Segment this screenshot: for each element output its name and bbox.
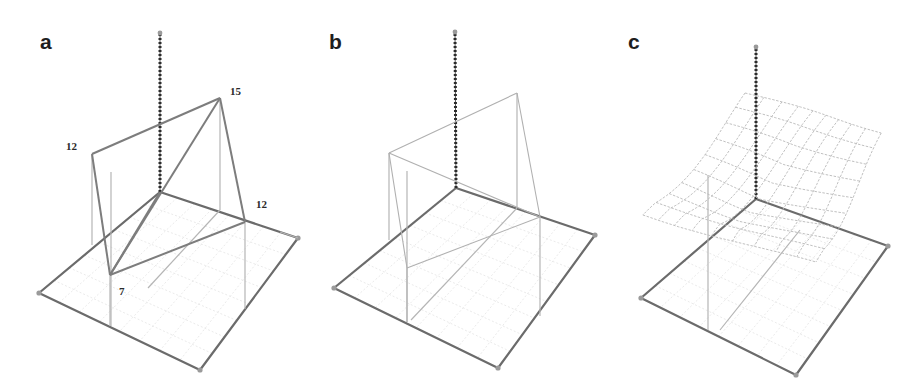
guide-line	[148, 210, 220, 288]
grid-line	[365, 263, 523, 335]
floor-edge-front-right	[796, 246, 888, 375]
floor-corner-marker	[197, 367, 202, 372]
point-value-label: 12	[256, 198, 268, 210]
mesh-col	[754, 120, 838, 247]
floor-corner-marker	[331, 285, 336, 290]
grid-line	[130, 217, 274, 271]
guide-line	[280, 232, 298, 238]
grid-line	[145, 205, 286, 255]
floor-edge-left-front	[641, 298, 796, 375]
floor-corner-marker	[885, 243, 890, 248]
floor-corner-marker	[793, 372, 798, 377]
mesh-row	[716, 139, 860, 181]
axis-top-marker	[453, 30, 458, 35]
panel-label-c: c	[628, 30, 640, 53]
edge-back-right	[220, 98, 245, 222]
mesh-col	[643, 93, 745, 215]
panel-label-b: b	[329, 30, 342, 53]
grid-line	[395, 238, 547, 302]
mesh-col	[732, 115, 826, 241]
grid-line	[69, 268, 224, 337]
grid-line	[757, 234, 855, 356]
axis-top-marker	[754, 45, 759, 50]
panel-b: b	[329, 30, 598, 371]
point-value-label: 12	[66, 140, 78, 152]
grid-line	[738, 228, 839, 346]
figure-canvas: 1215127a b c	[0, 0, 919, 390]
floor-corner-marker	[36, 290, 41, 295]
grid-line	[670, 273, 819, 343]
floor-edge-front-right	[200, 238, 298, 370]
edge-left-back	[92, 98, 220, 154]
floor-edge-back-left	[641, 199, 756, 298]
edge-back-right	[517, 93, 540, 217]
mesh-col	[658, 97, 764, 220]
mesh-row	[745, 93, 881, 133]
mesh-row	[656, 203, 824, 249]
grid-line	[441, 201, 583, 252]
grid-line	[54, 280, 212, 353]
panel-a: 1215127a	[36, 30, 300, 373]
mesh-row	[705, 155, 853, 198]
grid-line	[457, 223, 560, 348]
grid-line	[115, 230, 262, 288]
grid-line	[684, 261, 830, 327]
floor-edge-back-left	[334, 188, 456, 288]
grid-line	[478, 229, 578, 358]
point-value-label: 7	[119, 285, 125, 297]
edge-front-left	[389, 153, 407, 268]
edge-right-front	[407, 217, 540, 268]
grid-line	[719, 223, 823, 337]
grid-line	[660, 205, 772, 308]
grid-line	[160, 227, 264, 351]
axis-top-marker	[158, 31, 163, 36]
floor-edge-right-back	[456, 188, 595, 235]
grid-line	[410, 226, 558, 285]
edge-front-left	[92, 154, 110, 275]
floor-edge-right-back	[160, 192, 298, 238]
panel-label-a: a	[40, 30, 52, 53]
floor-corner-marker	[638, 295, 643, 300]
edge-front-origin	[110, 192, 160, 275]
floor-edge-front-right	[498, 235, 595, 368]
mesh-row	[694, 170, 847, 214]
edge-left-back	[389, 93, 517, 153]
floor-corner-marker	[495, 365, 500, 370]
floor-edge-right-back	[756, 199, 888, 246]
panel-c: c	[628, 30, 891, 378]
guide-line	[720, 230, 800, 330]
point-value-label: 15	[230, 85, 242, 97]
grid-line	[380, 251, 535, 319]
grid-line	[84, 255, 236, 320]
floor-corner-marker	[592, 232, 597, 237]
edge-right-front	[110, 222, 245, 275]
